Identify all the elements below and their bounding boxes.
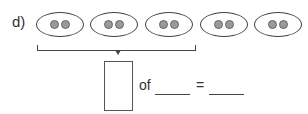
counter-dot	[159, 20, 168, 29]
fraction-answer-box[interactable]	[104, 61, 133, 111]
answer-blank-2[interactable]	[209, 94, 244, 95]
answer-blank-1[interactable]	[155, 94, 190, 95]
counter-dot	[104, 20, 113, 29]
counter-dot	[279, 20, 288, 29]
equals-sign: =	[196, 77, 204, 93]
group-oval	[90, 12, 138, 37]
bracket-tick	[115, 50, 121, 55]
problem-label: d)	[12, 13, 25, 30]
group-oval	[254, 12, 302, 37]
counter-dot	[50, 20, 59, 29]
counter-dot	[115, 20, 124, 29]
counter-dot	[268, 20, 277, 29]
of-text: of	[139, 77, 151, 93]
group-oval	[36, 12, 84, 37]
counter-dot	[214, 20, 223, 29]
counter-dot	[170, 20, 179, 29]
group-oval	[145, 12, 193, 37]
counter-dot	[61, 20, 70, 29]
group-oval	[200, 12, 248, 37]
counter-dot	[225, 20, 234, 29]
